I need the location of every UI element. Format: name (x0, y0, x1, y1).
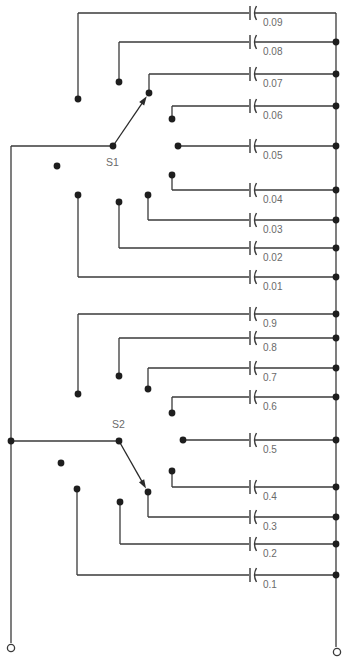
bus-junction-dot (8, 438, 15, 445)
switch-wiper-arm-s2 (119, 441, 143, 483)
capacitor-value-label: 0.6 (263, 401, 277, 412)
bus-junction-dot (333, 572, 340, 579)
bus-junction-dot (333, 365, 340, 372)
bus-junction-dot (333, 71, 340, 78)
wiper-arrow-icon (139, 479, 146, 488)
capacitor-value-label: 0.8 (263, 342, 277, 353)
bus-junction-dot (333, 437, 340, 444)
capacitor-value-label: 0.7 (263, 372, 277, 383)
capacitor-value-label: 0.5 (263, 444, 277, 455)
bus-junction-dot (333, 541, 340, 548)
switch-contact-off[interactable] (54, 163, 61, 170)
capacitor-value-label: 0.03 (263, 224, 283, 235)
switch-contact-off[interactable] (58, 460, 65, 467)
contacts-layer (7, 39, 340, 656)
switch-contact-0-03[interactable] (145, 192, 152, 199)
bus-junction-dot (333, 217, 340, 224)
switch-contact-0-02[interactable] (116, 199, 123, 206)
wires-layer (11, 13, 336, 647)
switch-contact-0-1[interactable] (74, 486, 81, 493)
capacitor-value-label: 0.01 (263, 281, 283, 292)
switch-contact-0-5[interactable] (180, 437, 187, 444)
switch-contact-0-3[interactable] (145, 489, 152, 496)
bus-junction-dot (333, 187, 340, 194)
bus-junction-dot (333, 394, 340, 401)
switch-contact-0-08[interactable] (116, 79, 123, 86)
switch-contact-0-7[interactable] (145, 386, 152, 393)
switch-contact-0-9[interactable] (75, 391, 82, 398)
switch-contact-0-2[interactable] (117, 499, 124, 506)
switch-label: S1 (106, 156, 119, 168)
capacitor-value-label: 0.09 (263, 17, 283, 28)
switch-contact-0-01[interactable] (75, 192, 82, 199)
left-terminal[interactable] (7, 644, 14, 651)
capacitor-value-label: 0.06 (263, 110, 283, 121)
switch-contact-0-4[interactable] (169, 468, 176, 475)
wiper-arrow-icon (139, 96, 147, 105)
bus-junction-dot (333, 335, 340, 342)
bus-junction-dot (333, 514, 340, 521)
switch-contact-0-09[interactable] (75, 96, 82, 103)
capacitor-value-label: 0.2 (263, 548, 277, 559)
switch-contact-0-6[interactable] (169, 410, 176, 417)
capacitor-value-label: 0.4 (263, 491, 277, 502)
bus-junction-dot (333, 39, 340, 46)
bus-junction-dot (333, 484, 340, 491)
capacitor-value-label: 0.04 (263, 194, 283, 205)
bus-junction-dot (333, 103, 340, 110)
capacitor-value-label: 0.07 (263, 78, 283, 89)
bus-junction-dot (333, 245, 340, 252)
switch-contact-0-07[interactable] (146, 90, 153, 97)
capacitor-value-label: 0.1 (263, 579, 277, 590)
capacitor-value-label: 0.08 (263, 46, 283, 57)
switch-wiper-arm-s1 (113, 101, 143, 146)
bus-junction-dot (333, 274, 340, 281)
capacitor-value-label: 0.02 (263, 252, 283, 263)
switch-contact-0-04[interactable] (169, 172, 176, 179)
labels-layer: 0.090.080.070.060.050.040.030.020.01S10.… (106, 17, 283, 590)
switch-contact-0-8[interactable] (116, 373, 123, 380)
bus-junction-dot (333, 311, 340, 318)
capacitor-value-label: 0.3 (263, 521, 277, 532)
capacitor-decade-box-schematic: 0.090.080.070.060.050.040.030.020.01S10.… (0, 0, 352, 670)
capacitors-layer (249, 6, 257, 582)
switch-contact-0-06[interactable] (169, 116, 176, 123)
capacitor-value-label: 0.9 (263, 318, 277, 329)
capacitor-value-label: 0.05 (263, 150, 283, 161)
switch-contact-0-05[interactable] (175, 143, 182, 150)
bus-junction-dot (333, 143, 340, 150)
right-terminal[interactable] (333, 648, 340, 655)
switch-pivot-s1[interactable] (110, 143, 117, 150)
switch-label: S2 (112, 418, 125, 430)
switch-pivot-s2[interactable] (116, 438, 123, 445)
